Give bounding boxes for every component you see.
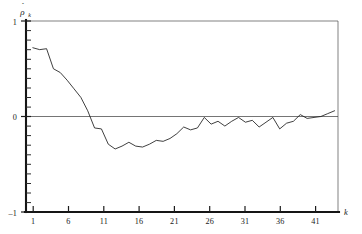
x-ticklabel-36: 36 [276, 217, 285, 226]
x-ticklabel-6: 6 [66, 217, 70, 226]
x-ticklabel-16: 16 [135, 217, 144, 226]
autocorrelation-series-line [33, 48, 335, 149]
x-ticklabel-41: 41 [311, 217, 320, 226]
correlogram-figure: 1 0 –1 1 6 11 16 21 26 31 36 41 ˆ ρ k k [0, 0, 362, 234]
x-ticklabel-26: 26 [205, 217, 214, 226]
y-axis-label-symbol: ρ [19, 7, 25, 17]
y-axis-label: ˆ ρ k [19, 2, 31, 18]
y-ticklabel-minus1: –1 [7, 209, 17, 218]
correlogram-svg: 1 0 –1 1 6 11 16 21 26 31 36 41 ˆ ρ k k [0, 0, 362, 234]
x-ticklabel-21: 21 [170, 217, 179, 226]
plot-frame [25, 20, 339, 212]
y-ticklabel-1: 1 [13, 18, 17, 27]
x-ticklabel-11: 11 [100, 217, 108, 226]
y-axis-label-subscript: k [28, 12, 31, 18]
y-ticklabel-0: 0 [13, 113, 17, 122]
x-axis-label: k [344, 207, 348, 217]
x-ticklabel-1: 1 [31, 217, 35, 226]
x-ticklabel-31: 31 [241, 217, 250, 226]
